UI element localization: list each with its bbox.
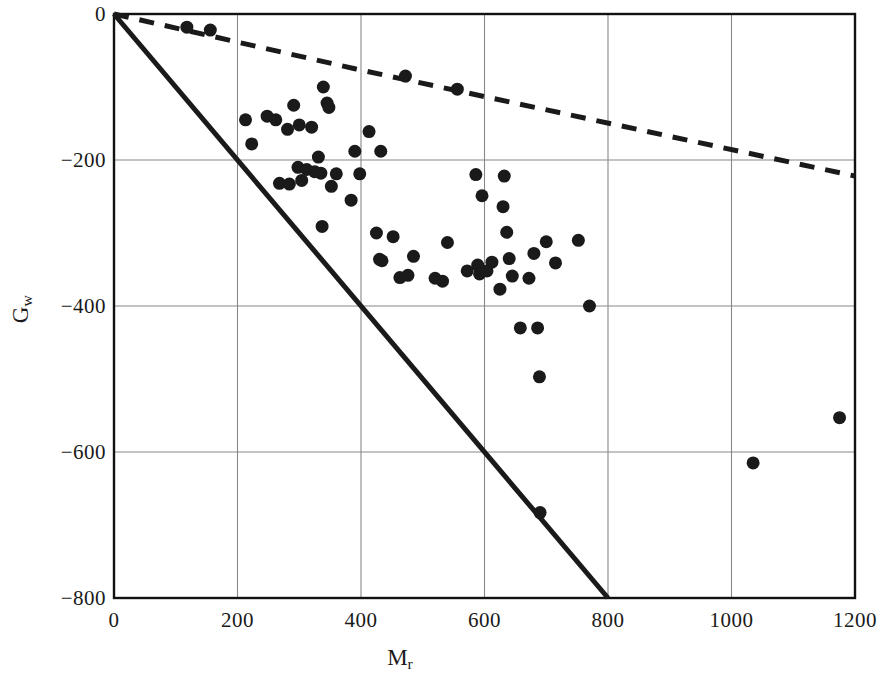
scatter-point [476,189,489,202]
x-tick-label: 1200 [833,608,877,633]
scatter-point [287,99,300,112]
scatter-point [500,226,513,239]
x-tick-label: 200 [221,608,254,633]
scatter-point [540,235,553,248]
scatter-point [503,252,516,265]
scatter-point [469,168,482,181]
y-axis-label-subscript: w [18,295,35,306]
scatter-point [348,145,361,158]
scatter-point [374,145,387,158]
scatter-point [317,81,330,94]
scatter-point [239,113,252,126]
grid-lines [114,14,855,598]
scatter-point [293,118,306,131]
scatter-point [401,269,414,282]
scatter-point [506,270,519,283]
scatter-point [314,167,327,180]
scatter-point [833,411,846,424]
scatter-point [531,321,544,334]
scatter-point [325,180,338,193]
scatter-point [436,275,449,288]
scatter-point [269,113,282,126]
y-tick-label: −200 [61,148,106,173]
x-tick-label: 600 [468,608,501,633]
scatter-point [493,283,506,296]
scatter-point [180,21,193,34]
scatter-point [549,256,562,269]
scatter-point [204,24,217,37]
scatter-point [322,101,335,114]
scatter-point [583,300,596,313]
x-tick-label: 1000 [710,608,754,633]
scatter-point [498,170,511,183]
scatter-point [451,83,464,96]
scatter-point [534,506,547,519]
scatter-point [572,234,585,247]
scatter-point [533,370,546,383]
scatter-point [399,70,412,83]
scatter-point [305,121,318,134]
y-tick-label: −800 [61,586,106,611]
x-tick-label: 400 [345,608,378,633]
scatter-point [514,321,527,334]
x-axis-label-base: M [387,645,407,670]
scatter-point [441,236,454,249]
y-axis-label-base: G [8,307,33,324]
x-axis-label: Mr [387,645,413,673]
data-points [180,21,846,519]
scatter-point [527,247,540,260]
scatter-point [245,137,258,150]
y-tick-label: −400 [61,294,106,319]
scatter-point [330,167,343,180]
scatter-point [353,167,366,180]
y-axis-label: Gw [8,295,36,323]
x-axis-label-subscript: r [408,655,413,672]
y-tick-label: 0 [95,2,106,27]
scatter-point [407,250,420,263]
scatter-point [375,254,388,267]
scatter-point [497,200,510,213]
scatter-point [363,125,376,138]
x-tick-label: 0 [109,608,120,633]
scatter-point [283,178,296,191]
scatter-point [747,456,760,469]
scatter-point [281,123,294,136]
scatter-point [370,227,383,240]
y-tick-label: −600 [61,440,106,465]
scatter-point [345,194,358,207]
scatter-point [316,220,329,233]
x-tick-label: 800 [592,608,625,633]
scatter-point [522,272,535,285]
scatter-point [485,256,498,269]
scatter-point [312,151,325,164]
scatter-point [387,230,400,243]
